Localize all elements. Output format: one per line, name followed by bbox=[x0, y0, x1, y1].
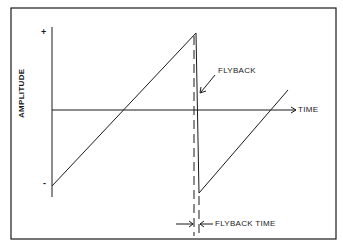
flyback-line bbox=[196, 33, 199, 193]
plus-label: + bbox=[41, 27, 47, 37]
y-axis-label: AMPLITUDE bbox=[17, 69, 26, 118]
frame-border bbox=[11, 8, 336, 239]
flyback-label: FLYBACK bbox=[218, 66, 256, 75]
x-axis-label: TIME bbox=[298, 105, 318, 114]
ramp-line-2 bbox=[199, 90, 288, 193]
flyback-time-label: FLYBACK TIME bbox=[215, 219, 276, 228]
minus-label: - bbox=[43, 178, 46, 188]
sawtooth-diagram bbox=[0, 0, 343, 251]
flyback-pointer-icon bbox=[201, 75, 215, 92]
